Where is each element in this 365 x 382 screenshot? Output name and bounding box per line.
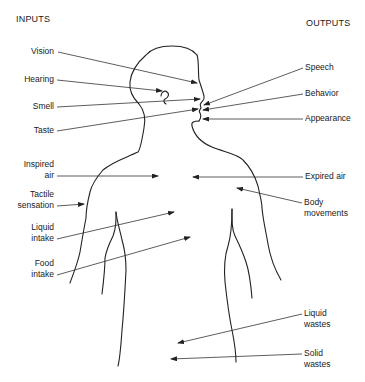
input-label-inspired-air-line2: air [45, 170, 54, 181]
output-label-speech: Speech [305, 62, 334, 73]
input-label-inspired-air-line1: Inspired [24, 159, 54, 170]
ear [161, 91, 168, 104]
output-label-liquid-wastes-line1: Liquid [304, 308, 327, 319]
speech-arrow [204, 68, 303, 105]
right-torso-side [232, 209, 252, 298]
head-outline [70, 46, 197, 283]
food-intake-arrow [57, 237, 190, 275]
input-label-food-intake-line2: intake [31, 269, 54, 280]
inputs-heading: INPUTS [16, 14, 50, 25]
input-label-taste: Taste [34, 125, 54, 136]
input-arrows [57, 52, 200, 275]
solid-wastes-arrow [171, 354, 302, 359]
left-inner-arm [116, 212, 126, 366]
output-label-appearance: Appearance [305, 113, 351, 124]
input-label-tactile-line1: Tactile [30, 189, 54, 200]
behavior-arrow [203, 94, 303, 110]
body-io-diagram: INPUTS OUTPUTS Vision Hearing Smell Tast… [0, 0, 365, 382]
output-label-solid-wastes-line1: Solid [304, 348, 323, 359]
input-label-liquid-intake-line2: intake [31, 233, 54, 244]
input-label-tactile-line2: sensation [18, 200, 54, 211]
left-torso-side [102, 212, 116, 294]
taste-arrow [57, 109, 198, 131]
output-label-solid-wastes-line2: wastes [304, 359, 330, 370]
input-label-hearing: Hearing [24, 74, 54, 85]
input-label-vision: Vision [31, 46, 54, 57]
input-label-smell: Smell [33, 101, 54, 112]
outputs-heading: OUTPUTS [306, 18, 350, 29]
human-silhouette [70, 46, 281, 366]
hearing-arrow [57, 80, 162, 91]
output-label-expired-air: Expired air [305, 171, 346, 182]
neck-right-shoulder [192, 121, 281, 280]
output-label-liquid-wastes-line2: wastes [304, 319, 330, 330]
output-label-body-movements-line1: Body [304, 197, 323, 208]
body-movements-arrow [237, 188, 302, 203]
vision-arrow [58, 52, 197, 83]
input-label-food-intake-line1: Food [35, 258, 54, 269]
tactile-sensation-arrow [57, 204, 84, 206]
liquid-wastes-arrow [178, 314, 302, 343]
face-profile [197, 55, 204, 121]
output-label-body-movements-line2: movements [304, 208, 348, 219]
output-arrows [171, 68, 303, 359]
output-label-behavior: Behavior [305, 88, 339, 99]
right-inner-arm [224, 209, 236, 362]
smell-arrow [57, 99, 200, 107]
input-label-liquid-intake-line1: Liquid [31, 222, 54, 233]
